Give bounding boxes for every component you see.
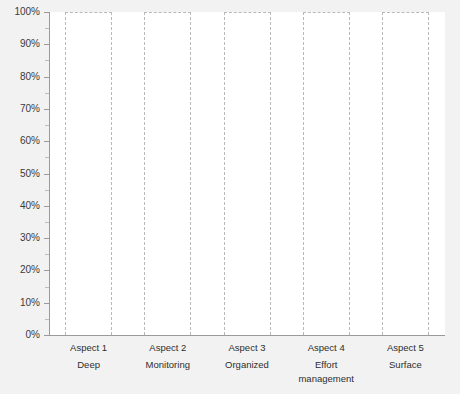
y-minor-tick-35: [45, 222, 49, 223]
y-tick-70: [44, 109, 49, 110]
y-tick-label-60: 60%: [0, 136, 40, 146]
y-tick-label-90: 90%: [0, 39, 40, 49]
x-label-aspect-4: Aspect 4Effort management: [287, 341, 366, 386]
y-tick-30: [44, 238, 49, 239]
y-tick-label-30: 30%: [0, 233, 40, 243]
y-minor-tick-15: [45, 287, 49, 288]
y-tick-50: [44, 174, 49, 175]
x-label-desc-aspect-4: Effort management: [287, 358, 366, 386]
x-label-desc-aspect-1: Deep: [49, 358, 128, 372]
y-tick-0: [44, 335, 49, 336]
y-tick-label-20: 20%: [0, 265, 40, 275]
x-label-desc-aspect-2: Monitoring: [128, 358, 207, 372]
chart-figure: 0%10%20%30%40%50%60%70%80%90%100% Aspect…: [0, 0, 460, 394]
x-label-desc-aspect-3: Organized: [207, 358, 286, 372]
x-label-name-aspect-5: Aspect 5: [366, 341, 445, 355]
y-tick-90: [44, 44, 49, 45]
y-tick-20: [44, 270, 49, 271]
x-label-name-aspect-1: Aspect 1: [49, 341, 128, 355]
y-minor-tick-45: [45, 190, 49, 191]
x-label-aspect-1: Aspect 1Deep: [49, 341, 128, 372]
y-tick-80: [44, 77, 49, 78]
x-label-name-aspect-3: Aspect 3: [207, 341, 286, 355]
x-label-name-aspect-2: Aspect 2: [128, 341, 207, 355]
y-tick-label-70: 70%: [0, 104, 40, 114]
y-axis-line: [49, 12, 50, 336]
x-label-desc-aspect-5: Surface: [366, 358, 445, 372]
y-minor-tick-75: [45, 93, 49, 94]
box-aspect-1: [65, 12, 112, 335]
y-minor-tick-25: [45, 254, 49, 255]
y-minor-tick-85: [45, 60, 49, 61]
y-tick-label-50: 50%: [0, 169, 40, 179]
y-minor-tick-55: [45, 157, 49, 158]
box-aspect-5: [382, 12, 429, 335]
y-tick-60: [44, 141, 49, 142]
y-minor-tick-5: [45, 319, 49, 320]
y-minor-tick-65: [45, 125, 49, 126]
box-aspect-2: [144, 12, 191, 335]
y-minor-tick-95: [45, 28, 49, 29]
y-tick-label-10: 10%: [0, 298, 40, 308]
y-tick-40: [44, 206, 49, 207]
y-tick-label-80: 80%: [0, 72, 40, 82]
box-aspect-4: [303, 12, 350, 335]
box-aspect-3: [224, 12, 271, 335]
y-tick-label-0: 0%: [0, 330, 40, 340]
x-label-aspect-2: Aspect 2Monitoring: [128, 341, 207, 372]
x-label-aspect-5: Aspect 5Surface: [366, 341, 445, 372]
y-tick-100: [44, 12, 49, 13]
y-tick-10: [44, 303, 49, 304]
x-axis-line: [49, 335, 445, 336]
x-label-aspect-3: Aspect 3Organized: [207, 341, 286, 372]
y-tick-label-40: 40%: [0, 201, 40, 211]
y-tick-label-100: 100%: [0, 7, 40, 17]
x-label-name-aspect-4: Aspect 4: [287, 341, 366, 355]
